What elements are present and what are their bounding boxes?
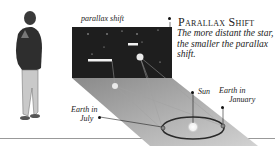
diagram-subtitle: The more distant the star, the smaller t… [177, 28, 275, 60]
sun-label: Sun [198, 87, 210, 96]
earth-july-label-1: Earth in [71, 105, 97, 114]
earth-july-marker [98, 116, 101, 119]
earth-january-marker [221, 106, 224, 109]
diagram-title: Parallax Shift [178, 16, 255, 28]
parallax-shift-marker [168, 17, 171, 20]
sun-marker [191, 91, 194, 94]
earth-july-label-2: July [80, 114, 93, 123]
earth-january-label-1: Earth in [219, 86, 245, 95]
earth-january-label-2: January [229, 95, 255, 104]
parallax-shift-label: parallax shift [81, 14, 124, 23]
